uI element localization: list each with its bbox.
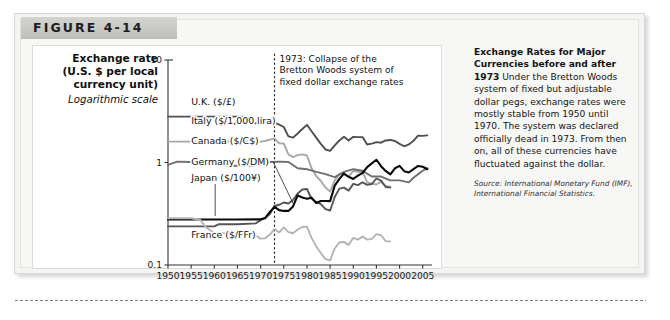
germany-leader-line — [273, 162, 293, 204]
x-axis-tick-label: 1955 — [180, 271, 203, 281]
x-axis-tick-label: 2000 — [388, 271, 411, 281]
y-axis-tick-label: 10 — [150, 55, 162, 65]
series-label-france-ffr: France ($/FFr) — [191, 229, 256, 240]
annotation-line: fixed dollar exchange rates — [280, 77, 404, 87]
caption-panel: Exchange Rates for Major Currencies befo… — [474, 46, 634, 251]
x-axis-tick-label: 1990 — [342, 271, 365, 281]
y-axis-tick-label: 1 — [156, 158, 162, 168]
series-label-canada-c: Canada ($/C$) — [191, 135, 259, 146]
x-axis-tick-label: 1965 — [226, 271, 249, 281]
bottom-dotted-rule — [14, 299, 646, 302]
x-axis-tick-label: 2005 — [411, 271, 434, 281]
x-axis-tick-label: 1980 — [295, 271, 318, 281]
x-axis-tick-label: 1960 — [203, 271, 226, 281]
x-axis-tick-label: 1975 — [272, 271, 295, 281]
figure-root: FIGURE 4-14 Exchange rate (U.S. $ per lo… — [0, 0, 670, 320]
series-label-italy-lira: Italy ($/1,000 lira) — [191, 115, 275, 126]
annotation-line: 1973: Collapse of the — [280, 54, 378, 64]
y-axis-tick-label: 0.1 — [148, 260, 162, 270]
caption-text: Exchange Rates for Major Currencies befo… — [474, 46, 634, 170]
x-axis-tick-label: 1950 — [156, 271, 179, 281]
x-axis-tick-label: 1985 — [319, 271, 342, 281]
series-label-japan: Japan ($/100¥) — [190, 172, 260, 183]
caption-source: Source: International Monetary Fund (IMF… — [474, 179, 634, 198]
annotation-line: Bretton Woods system of — [280, 65, 395, 75]
x-axis-tick-label: 1995 — [365, 271, 388, 281]
series-label-germany-dm: Germany ($/DM) — [191, 156, 269, 167]
series-label-u-k: U.K. ($/£) — [191, 96, 235, 107]
caption-body: Under the Bretton Woods system of fixed … — [474, 72, 627, 169]
x-axis-tick-label: 1970 — [249, 271, 272, 281]
